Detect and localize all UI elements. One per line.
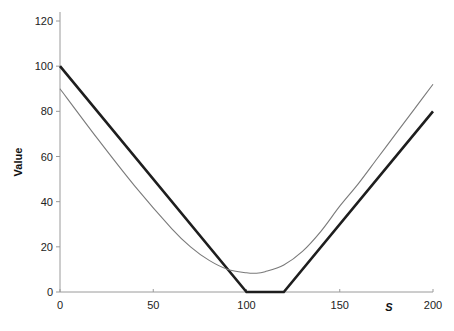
y-tick-label: 80 xyxy=(41,105,53,117)
payoff-line-thick xyxy=(60,66,433,292)
y-tick-label: 100 xyxy=(35,60,53,72)
y-ticks: 020406080100120 xyxy=(35,15,60,298)
axes xyxy=(60,12,433,292)
x-tick-label: 150 xyxy=(331,299,349,311)
x-tick-label: 200 xyxy=(424,299,442,311)
x-tick-label: 100 xyxy=(237,299,255,311)
y-tick-label: 120 xyxy=(35,15,53,27)
chart: 020406080100120 050100150200 Value S xyxy=(0,0,454,331)
y-tick-label: 0 xyxy=(47,286,53,298)
y-axis-title: Value xyxy=(12,148,24,177)
x-tick-label: 50 xyxy=(147,299,159,311)
x-tick-label: 0 xyxy=(57,299,63,311)
series-group xyxy=(60,66,433,292)
x-axis-title: S xyxy=(385,301,393,313)
y-tick-label: 60 xyxy=(41,151,53,163)
y-tick-label: 40 xyxy=(41,196,53,208)
y-tick-label: 20 xyxy=(41,241,53,253)
